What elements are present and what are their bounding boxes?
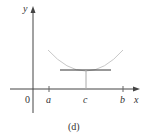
tick-label-c: c (83, 94, 88, 105)
y-axis-label: y (22, 3, 28, 14)
tick-label-b: b (120, 94, 125, 105)
x-axis-label: x (133, 94, 139, 105)
figure-caption: (d) (68, 121, 80, 133)
x-axis-arrow-icon (133, 87, 140, 92)
origin-label: 0 (25, 94, 30, 105)
y-axis-arrow-icon (31, 6, 36, 13)
curve (48, 50, 123, 71)
tick-label-a: a (46, 94, 51, 105)
figure-d: y 0 a c b x (d) (0, 0, 149, 140)
